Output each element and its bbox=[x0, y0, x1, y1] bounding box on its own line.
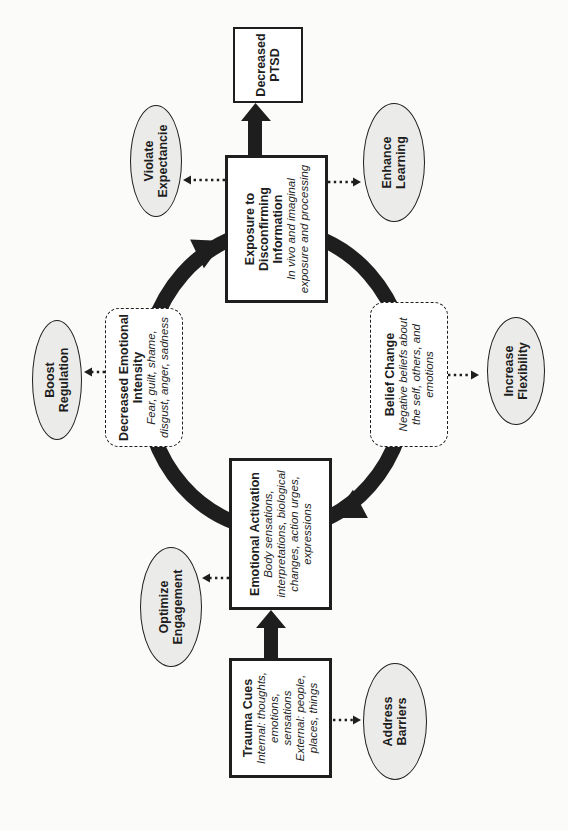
dotted-arrowhead-optimize-icon bbox=[202, 574, 210, 583]
violate-expectancies-label: Violate bbox=[142, 141, 157, 182]
belief-change-line: emotions bbox=[423, 351, 436, 398]
arrow-exposure-to-ptsd-icon bbox=[241, 103, 271, 155]
satellite-boost-regulation: Boost Regulation bbox=[32, 320, 82, 440]
trauma-cues-title: Trauma Cues bbox=[241, 679, 255, 758]
emotional-activation-box: Emotional Activation Body sensations, in… bbox=[229, 458, 332, 610]
decreased-ptsd-title: Decreased bbox=[254, 33, 268, 96]
satellite-violate-expectancies: Violate Expectancie bbox=[130, 105, 182, 217]
satellite-optimize-engagement: Optimize Engagement bbox=[140, 547, 202, 667]
boost-regulation-label: Boost bbox=[43, 362, 58, 397]
address-barriers-label: Barriers bbox=[395, 698, 410, 746]
satellite-increase-flexibility: Increase Flexibility bbox=[487, 317, 545, 425]
violate-expectancies-label: Expectancie bbox=[156, 125, 171, 198]
dotted-arrowhead-address-icon bbox=[353, 716, 361, 725]
satellite-enhance-learning: Enhance Learning bbox=[363, 103, 425, 222]
increase-flexibility-label: Flexibility bbox=[516, 342, 531, 400]
exposure-disconfirming-box: Exposure to Disconfirming Information In… bbox=[225, 155, 328, 303]
enhance-learning-label: Enhance bbox=[380, 136, 395, 188]
scanned-page: Trauma Cues Internal: thoughts, emotions… bbox=[0, 0, 568, 830]
increase-flexibility-label: Increase bbox=[502, 346, 517, 397]
exposure-line: In vivo and imaginal bbox=[285, 178, 298, 280]
arrow-cues-to-activation-icon bbox=[256, 610, 286, 658]
dotted-arrowhead-violate-icon bbox=[183, 176, 191, 185]
emotional-activation-line: Body sensations, bbox=[262, 490, 275, 578]
trauma-cues-line: sensations bbox=[281, 691, 294, 746]
dotted-arrowhead-enhance-icon bbox=[353, 178, 361, 187]
dei-line: disgust, anger, sadness bbox=[158, 317, 171, 438]
belief-change-line: the self, others, and bbox=[410, 324, 423, 425]
boost-regulation-label: Regulation bbox=[57, 348, 72, 413]
decreased-emotional-intensity-box: Decreased Emotional Intensity Fear, guil… bbox=[105, 308, 183, 447]
trauma-cues-box: Trauma Cues Internal: thoughts, emotions… bbox=[229, 658, 332, 778]
exposure-title: Exposure to bbox=[243, 193, 257, 265]
exposure-line: exposure and processing bbox=[298, 165, 311, 294]
emotional-activation-line: interpretations, biological bbox=[275, 470, 288, 597]
trauma-cues-line: places, things bbox=[307, 683, 320, 753]
emotional-activation-line: changes, action urges, bbox=[288, 476, 301, 592]
trauma-cues-line: emotions, bbox=[268, 693, 281, 743]
dei-title: Decreased Emotional bbox=[117, 314, 131, 441]
enhance-learning-label: Learning bbox=[394, 136, 409, 189]
diagram-canvas: Trauma Cues Internal: thoughts, emotions… bbox=[0, 0, 568, 830]
belief-change-line: Negative beliefs about bbox=[397, 318, 410, 432]
belief-change-title: Belief Change bbox=[383, 333, 397, 416]
address-barriers-label: Address bbox=[381, 696, 396, 746]
dei-title: Intensity bbox=[131, 352, 145, 403]
exposure-title: Information bbox=[271, 195, 285, 264]
dotted-arrowhead-boost-icon bbox=[84, 368, 92, 377]
dotted-arrowhead-increase-icon bbox=[471, 371, 479, 380]
belief-change-box: Belief Change Negative beliefs about the… bbox=[370, 302, 448, 447]
emotional-activation-line: expressions bbox=[301, 503, 314, 564]
trauma-cues-line: Internal: thoughts, bbox=[255, 672, 268, 764]
optimize-engagement-label: Optimize bbox=[157, 581, 172, 634]
satellite-address-barriers: Address Barriers bbox=[363, 663, 427, 780]
emotional-activation-title: Emotional Activation bbox=[248, 472, 262, 596]
decreased-ptsd-title: PTSD bbox=[268, 48, 282, 81]
dei-line: Fear, guilt, shame, bbox=[145, 330, 158, 425]
exposure-title: Disconfirming bbox=[257, 187, 271, 271]
decreased-ptsd-box: Decreased PTSD bbox=[233, 27, 303, 103]
optimize-engagement-label: Engagement bbox=[171, 570, 186, 645]
trauma-cues-line: External: people, bbox=[294, 675, 307, 761]
